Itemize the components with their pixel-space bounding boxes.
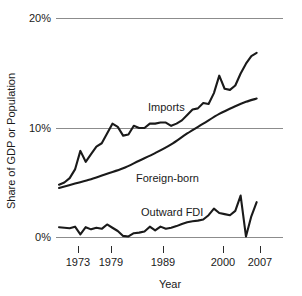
y-axis-title: Share of GDP or Population — [5, 73, 17, 209]
y-axis-tick-labels: 20% 10% 0% — [29, 12, 51, 243]
series-label-outward-fdi: Outward FDI — [141, 206, 203, 218]
line-chart: 20% 10% 0% 1973 1979 1989 2000 2007 Year… — [0, 0, 302, 296]
series-line-imports — [59, 53, 257, 185]
y-tick-label-10: 10% — [29, 122, 51, 134]
chart-container: 20% 10% 0% 1973 1979 1989 2000 2007 Year… — [0, 0, 302, 296]
series-label-foreign-born: Foreign-born — [136, 172, 199, 184]
y-gridlines — [56, 19, 283, 238]
series-annotations: Imports Foreign-born Outward FDI — [136, 101, 203, 218]
y-tick-label-20: 20% — [29, 12, 51, 24]
series-label-imports: Imports — [148, 101, 185, 113]
x-tick-label-2000: 2000 — [211, 256, 235, 268]
x-tick-label-2007: 2007 — [248, 256, 272, 268]
x-axis-tick-labels: 1973 1979 1989 2000 2007 — [66, 256, 272, 268]
x-tick-label-1979: 1979 — [99, 256, 123, 268]
x-tick-label-1973: 1973 — [66, 256, 90, 268]
x-axis-title: Year — [159, 278, 182, 290]
x-axis-ticks — [79, 246, 261, 253]
x-tick-label-1989: 1989 — [151, 256, 175, 268]
y-tick-label-0: 0% — [35, 231, 51, 243]
